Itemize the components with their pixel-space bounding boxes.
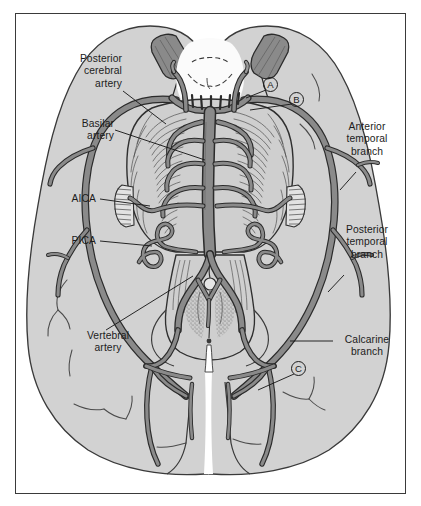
basilar-artery — [205, 112, 210, 254]
label-aica: AICA — [46, 193, 96, 205]
label-calcarine-branch: Calcarine branch — [334, 334, 400, 359]
label-anterior-temporal-branch: Anterior temporal branch — [334, 121, 400, 158]
label-vertebral-artery: Vertebral artery — [72, 330, 144, 355]
callout-a[interactable]: A — [263, 77, 278, 92]
callout-b[interactable]: B — [289, 92, 304, 107]
figure-container: Posterior cerebral artery Basilar artery… — [0, 0, 421, 506]
callout-c[interactable]: C — [291, 361, 306, 376]
label-posterior-cerebral-artery: Posterior cerebral artery — [54, 53, 122, 90]
label-posterior-temporal-branch: Posterior temporal branch — [333, 224, 401, 261]
label-pica: PICA — [46, 235, 96, 247]
label-basilar-artery: Basilar artery — [52, 118, 114, 143]
